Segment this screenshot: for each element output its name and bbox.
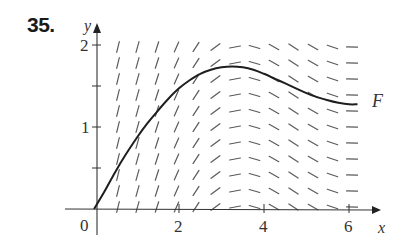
slope-segment <box>289 204 298 210</box>
slope-segment <box>193 186 199 195</box>
slope-segment <box>117 170 120 181</box>
slope-segment <box>155 90 158 100</box>
slope-segment <box>327 93 337 97</box>
slope-segment <box>327 45 337 49</box>
slope-segment <box>117 58 120 69</box>
slope-segment <box>230 174 241 176</box>
slope-segment <box>117 106 120 117</box>
slope-segment <box>193 154 199 163</box>
slope-segment <box>269 156 279 161</box>
slope-segment <box>327 157 337 161</box>
slope-field-chart: 246210xyF <box>0 0 408 249</box>
slope-segment <box>136 74 139 85</box>
slope-segment <box>249 174 260 177</box>
slope-segment <box>211 188 220 195</box>
slope-segment <box>155 170 158 180</box>
slope-segment <box>249 110 260 113</box>
slope-segment <box>230 126 241 128</box>
slope-segment <box>230 78 241 80</box>
slope-segment <box>308 124 318 129</box>
slope-segment <box>174 122 178 132</box>
solution-curve-F <box>94 67 358 210</box>
slope-segment <box>289 60 298 66</box>
slope-segment <box>117 202 120 213</box>
slope-segment <box>211 172 220 179</box>
slope-segment <box>117 74 120 85</box>
slope-segment <box>289 108 298 114</box>
slope-segment <box>193 122 199 131</box>
slope-segment <box>230 46 241 48</box>
slope-segment <box>269 188 279 193</box>
slope-segment <box>269 124 279 129</box>
slope-segment <box>174 202 178 212</box>
x-axis-arrow-icon <box>372 206 381 214</box>
slope-segment <box>269 92 279 97</box>
slope-segment <box>308 76 318 81</box>
slope-segment <box>155 42 158 52</box>
slope-segment <box>249 142 260 145</box>
slope-segment <box>136 154 139 165</box>
slope-segment <box>327 61 337 65</box>
slope-segment <box>249 126 260 129</box>
slope-segment <box>174 154 178 164</box>
slope-segment <box>136 42 139 53</box>
slope-segment <box>269 44 279 49</box>
y-axis-arrow-icon <box>93 23 101 33</box>
slope-segment <box>174 106 178 116</box>
slope-segment <box>327 205 337 209</box>
slope-segment <box>117 90 120 101</box>
slope-segment <box>269 172 279 177</box>
slope-segment <box>117 42 120 53</box>
slope-segment <box>289 124 298 130</box>
slope-segment <box>136 122 139 133</box>
slope-segment <box>211 108 220 115</box>
slope-segment <box>249 206 260 209</box>
x-tick-label: 2 <box>174 217 183 236</box>
curve-label-F: F <box>371 91 384 111</box>
slope-segment <box>136 58 139 69</box>
slope-segment <box>136 202 139 213</box>
slope-segment <box>174 42 178 52</box>
axes <box>65 23 381 235</box>
slope-segment <box>155 202 158 212</box>
slope-segment <box>136 186 139 197</box>
slope-segment <box>174 170 178 180</box>
slope-segment <box>193 106 199 115</box>
slope-segment <box>289 76 298 82</box>
slope-segment <box>174 58 178 68</box>
x-tick-label: 6 <box>344 217 353 236</box>
slope-segment <box>211 156 220 163</box>
slope-segment <box>269 140 279 145</box>
slope-segment <box>193 58 199 67</box>
slope-segment <box>327 125 337 129</box>
slope-segment <box>230 206 241 208</box>
slope-segment <box>136 90 139 101</box>
slope-segment <box>211 140 220 147</box>
slope-segment <box>117 122 120 133</box>
slope-segment <box>136 170 139 181</box>
slope-segment <box>230 94 241 96</box>
slope-segment <box>249 78 260 81</box>
slope-segment <box>327 173 337 177</box>
slope-segment <box>289 188 298 194</box>
slope-segment <box>193 90 199 99</box>
slope-segment <box>230 190 241 192</box>
x-axis-label: x <box>377 219 385 236</box>
slope-segment <box>174 74 178 84</box>
slope-segment <box>327 77 337 81</box>
slope-segment <box>230 142 241 144</box>
slope-segment <box>269 108 279 113</box>
slope-segment <box>327 141 337 145</box>
slope-segment <box>155 186 158 196</box>
slope-segment <box>289 156 298 162</box>
slope-segment <box>117 186 120 197</box>
y-tick-label: 1 <box>81 118 90 137</box>
axis-labels: 246210xyF <box>80 17 385 236</box>
slope-segment <box>289 140 298 146</box>
slope-segment <box>308 108 318 113</box>
slope-segment <box>230 158 241 160</box>
slope-segment <box>308 204 318 209</box>
slope-segment <box>193 42 199 51</box>
origin-label: 0 <box>80 216 89 235</box>
slope-segment <box>289 92 298 98</box>
